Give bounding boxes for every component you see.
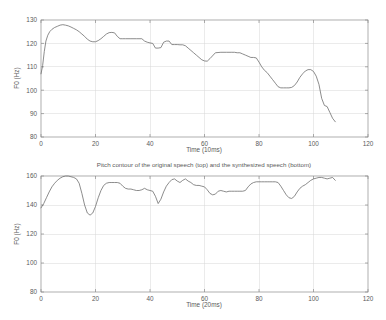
y-tick-label: 100 [26, 87, 37, 94]
y-tick-label: 140 [26, 201, 37, 208]
x-tick-label: 40 [146, 295, 154, 302]
y-tick-label: 90 [30, 110, 38, 117]
figure-canvas: 020406080100120 8090100110120130 Time (1… [0, 0, 386, 320]
x-tick-label: 0 [39, 140, 43, 147]
y-tick-label: 100 [26, 259, 37, 266]
top-chart-y-axis-label: F0 (Hz) [13, 67, 21, 88]
top-chart: 020406080100120 8090100110120130 Time (1… [13, 16, 374, 154]
x-tick-label: 80 [255, 295, 263, 302]
x-tick-label: 120 [363, 140, 374, 147]
bottom-chart-gridlines [41, 176, 368, 292]
bottom-chart-ytick-labels: 80100120140160 [26, 172, 37, 295]
bottom-chart-y-axis-label: F0 (Hz) [13, 223, 21, 244]
bottom-chart-x-axis-label: Time (20ms) [186, 301, 222, 309]
bottom-chart-line-series [41, 176, 335, 215]
y-tick-label: 130 [26, 16, 37, 23]
y-tick-label: 120 [26, 40, 37, 47]
x-tick-label: 20 [92, 140, 100, 147]
x-tick-label: 80 [255, 140, 263, 147]
bottom-chart: Pitch contour of the original speech (to… [13, 161, 374, 309]
x-tick-label: 0 [39, 295, 43, 302]
x-tick-label: 40 [146, 140, 154, 147]
top-chart-ytick-labels: 8090100110120130 [26, 16, 37, 140]
y-tick-label: 160 [26, 172, 37, 179]
y-tick-label: 80 [30, 288, 38, 295]
y-tick-label: 110 [27, 63, 38, 70]
x-tick-label: 100 [308, 140, 319, 147]
x-tick-label: 120 [363, 295, 374, 302]
y-tick-label: 80 [30, 133, 38, 140]
y-tick-label: 120 [26, 230, 37, 237]
pitch-contour-figure: 020406080100120 8090100110120130 Time (1… [0, 0, 386, 320]
top-chart-line-series [41, 25, 335, 122]
x-tick-label: 100 [308, 295, 319, 302]
x-tick-label: 20 [92, 295, 100, 302]
top-chart-x-axis-label: Time (10ms) [186, 146, 222, 154]
top-chart-gridlines [41, 20, 368, 137]
figure-title: Pitch contour of the original speech (to… [97, 161, 311, 168]
